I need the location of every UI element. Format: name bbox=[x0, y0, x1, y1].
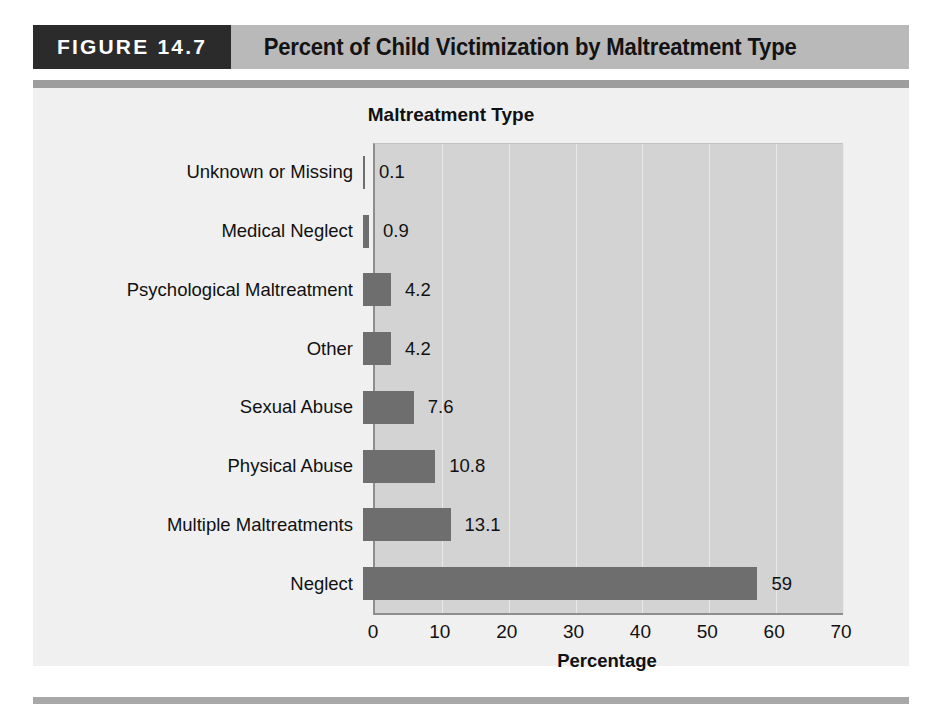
bar[interactable] bbox=[363, 450, 435, 483]
category-label: Psychological Maltreatment bbox=[33, 279, 363, 301]
x-tick-label: 60 bbox=[744, 621, 804, 643]
category-label: Medical Neglect bbox=[33, 220, 363, 242]
bar-row: Other4.2 bbox=[33, 320, 909, 378]
x-axis-ticks-group: 010203040506070 bbox=[33, 621, 909, 649]
bar-row: Physical Abuse10.8 bbox=[33, 437, 909, 495]
x-tick-label: 40 bbox=[610, 621, 670, 643]
x-axis-title: Percentage bbox=[373, 650, 841, 672]
category-label: Other bbox=[33, 338, 363, 360]
x-tick-label: 30 bbox=[544, 621, 604, 643]
figure-bottom-rule bbox=[33, 697, 909, 704]
figure-header: FIGURE 14.7 Percent of Child Victimizati… bbox=[33, 25, 909, 69]
bar[interactable] bbox=[363, 215, 369, 248]
x-axis-line bbox=[373, 613, 843, 615]
bar-row: Multiple Maltreatments13.1 bbox=[33, 496, 909, 554]
bar[interactable] bbox=[363, 332, 391, 365]
bar-value-label: 4.2 bbox=[405, 338, 431, 360]
bar-row: Unknown or Missing0.1 bbox=[33, 143, 909, 201]
bar-chart: Maltreatment Type Unknown or Missing0.1M… bbox=[33, 88, 909, 666]
category-label: Physical Abuse bbox=[33, 455, 363, 477]
bar-container: 13.1 bbox=[363, 496, 501, 554]
category-label: Neglect bbox=[33, 573, 363, 595]
x-tick-label: 70 bbox=[811, 621, 871, 643]
bar-container: 0.1 bbox=[363, 143, 405, 201]
bar-value-label: 0.9 bbox=[383, 220, 409, 242]
x-tick-label: 50 bbox=[677, 621, 737, 643]
figure-title: Percent of Child Victimization by Maltre… bbox=[231, 25, 882, 69]
bar-container: 59 bbox=[363, 555, 792, 613]
bar-row: Sexual Abuse7.6 bbox=[33, 378, 909, 436]
x-tick-label: 10 bbox=[410, 621, 470, 643]
figure-body-panel: Maltreatment Type Unknown or Missing0.1M… bbox=[33, 88, 909, 666]
bar[interactable] bbox=[363, 508, 451, 541]
bar-value-label: 4.2 bbox=[405, 279, 431, 301]
bar-container: 4.2 bbox=[363, 261, 431, 319]
category-label: Unknown or Missing bbox=[33, 161, 363, 183]
bar-row: Medical Neglect0.9 bbox=[33, 202, 909, 260]
category-label: Multiple Maltreatments bbox=[33, 514, 363, 536]
bar-value-label: 7.6 bbox=[428, 396, 454, 418]
bar-row: Psychological Maltreatment4.2 bbox=[33, 261, 909, 319]
bar-value-label: 13.1 bbox=[465, 514, 501, 536]
bar-value-label: 0.1 bbox=[379, 161, 405, 183]
header-divider-rule bbox=[33, 80, 909, 88]
bar-value-label: 59 bbox=[771, 573, 792, 595]
bar-row: Neglect59 bbox=[33, 555, 909, 613]
bar-rows-group: Unknown or Missing0.1Medical Neglect0.9P… bbox=[33, 88, 909, 613]
x-tick-label: 20 bbox=[477, 621, 537, 643]
bar[interactable] bbox=[363, 391, 414, 424]
bar-value-label: 10.8 bbox=[449, 455, 485, 477]
bar[interactable] bbox=[363, 156, 365, 189]
bar[interactable] bbox=[363, 273, 391, 306]
figure-number-tag: FIGURE 14.7 bbox=[33, 25, 231, 69]
x-tick-label: 0 bbox=[343, 621, 403, 643]
category-label: Sexual Abuse bbox=[33, 396, 363, 418]
bar-container: 4.2 bbox=[363, 320, 431, 378]
bar-container: 10.8 bbox=[363, 437, 485, 495]
bar-container: 0.9 bbox=[363, 202, 409, 260]
bar[interactable] bbox=[363, 567, 757, 600]
bar-container: 7.6 bbox=[363, 378, 454, 436]
